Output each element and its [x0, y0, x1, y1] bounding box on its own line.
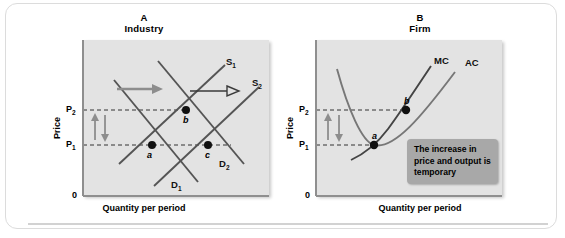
panel-b-price-up-arrow — [324, 113, 332, 140]
figure-card: A Industry Price P2 P1 0 Quantity per pe… — [5, 3, 557, 229]
panel-a-point-label-a: a — [147, 150, 152, 160]
panel-a-price-up-arrow — [91, 113, 99, 140]
panel-a-point-label-b: b — [183, 115, 189, 125]
panel-b-point-b — [402, 106, 410, 114]
panel-b-graphics — [282, 4, 558, 230]
panel-a-label-s1-sub: 1 — [232, 62, 236, 69]
panel-a-point-label-c: c — [205, 150, 210, 160]
panel-b-label-ac: AC — [465, 57, 479, 68]
panel-a-graphics — [6, 4, 282, 230]
panel-b-label-mc: MC — [434, 55, 449, 66]
panel-b-annotation-box: The increase in price and output is temp… — [407, 139, 498, 184]
panel-a-label-d2-text: D — [219, 158, 226, 169]
panel-a-label-d1-text: D — [171, 179, 178, 190]
panel-b-point-label-b: b — [404, 96, 410, 106]
panel-b-point-a — [370, 141, 378, 149]
panel-a-price-down-arrow — [101, 115, 109, 142]
panel-a-label-d1-sub: 1 — [178, 185, 182, 192]
panel-a-label-d2-sub: 2 — [226, 164, 230, 171]
panel-a-label-s2-sub: 2 — [258, 83, 262, 90]
figure-footer-divider — [28, 223, 548, 225]
panel-a-curve-s2 — [154, 87, 259, 186]
panel-a-industry: A Industry Price P2 P1 0 Quantity per pe… — [6, 4, 282, 230]
panel-b-price-down-arrow — [335, 115, 343, 142]
panel-a-point-b — [182, 106, 190, 114]
panel-a-label-s2: S2 — [252, 77, 262, 90]
panel-a-point-c — [204, 141, 212, 149]
panel-a-label-d2: D2 — [219, 158, 230, 171]
panel-a-label-s1: S1 — [226, 56, 236, 69]
panel-a-point-a — [148, 141, 156, 149]
panel-a-label-d1: D1 — [171, 179, 182, 192]
panel-b-curve-ac — [337, 69, 455, 145]
panel-a-supply-shift-arrow — [190, 86, 239, 96]
panel-b-point-label-a: a — [372, 131, 377, 141]
panel-a-curve-d1 — [114, 80, 198, 182]
panel-b-firm: B Firm Price P2 P1 0 Quantity per period — [282, 4, 558, 230]
